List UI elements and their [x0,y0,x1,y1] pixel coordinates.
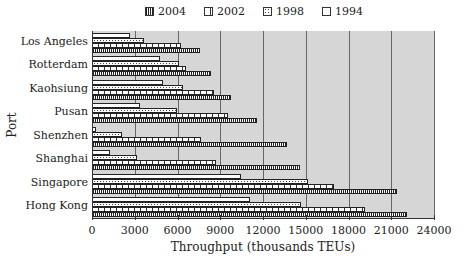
y-tick-label: Rotterdam [28,58,88,71]
bar-shenzhen-2004 [93,142,287,147]
x-tick-mark [434,215,435,220]
bar-hong-kong-2004 [93,212,407,217]
x-tick-mark [92,215,93,220]
legend-label: 2004 [158,5,186,18]
x-tick-mark [178,215,179,220]
x-tick-mark [220,215,221,220]
x-tick-mark [263,215,264,220]
legend-label: 1998 [276,5,304,18]
x-tick-label: 21000 [374,224,409,237]
y-tick-label: Shanghai [36,152,88,165]
x-tick-label: 3000 [121,224,149,237]
x-tick-label: 24000 [417,224,452,237]
x-tick-mark [391,215,392,220]
x-axis-label: Throughput (thousands TEUs) [171,240,355,254]
chart: 2004200219981994 Port Los AngelesRotterd… [0,0,467,265]
bar-shanghai-2004 [93,165,300,170]
x-tick-label: 9000 [206,224,234,237]
legend-swatch-icon [322,7,331,16]
bar-pusan-2004 [93,118,257,123]
bar-singapore-2004 [93,189,397,194]
x-tick-label: 6000 [164,224,192,237]
plot-area [92,31,434,219]
legend-label: 2002 [217,5,245,18]
y-tick-label: Shenzhen [33,129,88,142]
y-tick-label: Kaohsiung [29,82,88,95]
x-tick-label: 12000 [246,224,281,237]
y-tick-label: Hong Kong [25,199,88,212]
legend-swatch-icon [263,7,272,16]
legend-swatch-icon [204,7,213,16]
y-axis-label: Port [5,112,19,137]
y-tick-label: Los Angeles [21,35,88,48]
legend-swatch-icon [145,7,154,16]
legend: 2004200219981994 [145,4,363,18]
legend-item-1998: 1998 [263,5,304,18]
x-tick-mark [306,215,307,220]
gridline [434,31,435,218]
x-tick-mark [349,215,350,220]
x-tick-label: 18000 [331,224,366,237]
legend-item-2004: 2004 [145,5,186,18]
legend-label: 1994 [335,5,363,18]
x-tick-label: 0 [89,224,96,237]
bar-kaohsiung-2004 [93,95,231,100]
x-tick-label: 15000 [288,224,323,237]
y-tick-label: Singapore [31,176,88,189]
x-tick-mark [135,215,136,220]
bar-rotterdam-2004 [93,71,211,76]
legend-item-2002: 2002 [204,5,245,18]
legend-item-1994: 1994 [322,5,363,18]
bar-los-angeles-2004 [93,48,200,53]
y-tick-label: Pusan [54,105,88,118]
